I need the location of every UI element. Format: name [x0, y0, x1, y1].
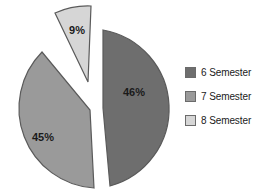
pie-slice-6-semester[interactable]	[103, 30, 169, 186]
pie-plot-area: 46% 45% 9%	[0, 0, 180, 196]
slice-value-6-semester: 46%	[123, 86, 145, 98]
slice-value-8-semester: 9%	[69, 24, 85, 36]
slice-value-7-semester: 45%	[32, 131, 54, 143]
pie-chart: 46% 45% 9% 6 Semester 7 Semester 8 Semes…	[0, 0, 258, 196]
legend-item-7-semester[interactable]: 7 Semester	[185, 88, 258, 104]
chart-legend: 6 Semester 7 Semester 8 Semester	[185, 64, 258, 136]
legend-label-8-semester: 8 Semester	[201, 115, 251, 126]
legend-swatch-icon-8-semester	[185, 115, 196, 126]
legend-label-7-semester: 7 Semester	[201, 91, 251, 102]
legend-swatch-icon-6-semester	[185, 67, 196, 78]
legend-swatch-icon-7-semester	[185, 91, 196, 102]
legend-item-6-semester[interactable]: 6 Semester	[185, 64, 258, 80]
pie-slice-8-semester[interactable]	[55, 6, 91, 82]
legend-label-6-semester: 6 Semester	[201, 67, 251, 78]
legend-item-8-semester[interactable]: 8 Semester	[185, 112, 258, 128]
pie-svg: 46% 45% 9%	[0, 0, 180, 196]
